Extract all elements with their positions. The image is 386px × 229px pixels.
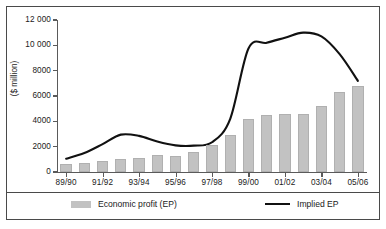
x-tick-mark xyxy=(139,173,140,177)
bar-economic-profit xyxy=(334,92,345,172)
legend-line-swatch-icon xyxy=(265,203,290,205)
x-tick-mark xyxy=(103,173,104,177)
bar-economic-profit xyxy=(170,156,181,172)
bar-economic-profit xyxy=(115,159,126,172)
bar-economic-profit xyxy=(316,106,327,172)
bar-economic-profit xyxy=(206,145,217,172)
bar-economic-profit xyxy=(261,115,272,172)
bar-economic-profit xyxy=(352,86,363,172)
legend-bar-label: Economic profit (EP) xyxy=(98,199,177,209)
x-tick-mark xyxy=(321,173,322,177)
bar-economic-profit xyxy=(243,119,254,172)
implied-ep-line xyxy=(66,33,358,159)
y-tick-label: 10 000 xyxy=(0,40,57,50)
legend-item-economic-profit: Economic profit (EP) xyxy=(71,199,177,209)
x-tick-mark xyxy=(358,173,359,177)
x-tick-mark xyxy=(66,173,67,177)
y-tick-label: 8000 xyxy=(0,66,57,76)
economic-profit-chart-figure: ($ million) 0200040006000800010 00012 00… xyxy=(0,0,386,229)
y-tick-label: 0 xyxy=(0,167,57,177)
y-tick-label: 12 000 xyxy=(0,15,57,25)
bar-economic-profit xyxy=(298,114,309,172)
legend-bar-swatch-icon xyxy=(71,201,91,208)
legend-item-implied-ep: Implied EP xyxy=(265,199,339,209)
x-tick-mark xyxy=(176,173,177,177)
bar-economic-profit xyxy=(152,155,163,172)
y-tick-label: 4000 xyxy=(0,116,57,126)
bar-economic-profit xyxy=(133,158,144,172)
plot-area xyxy=(57,20,367,172)
bar-economic-profit xyxy=(60,164,71,172)
chart-legend: Economic profit (EP) Implied EP xyxy=(7,192,379,218)
legend-line-label: Implied EP xyxy=(297,199,339,209)
bar-economic-profit xyxy=(279,114,290,172)
bar-economic-profit xyxy=(97,161,108,172)
bar-economic-profit xyxy=(188,152,199,172)
x-tick-mark xyxy=(212,173,213,177)
bar-economic-profit xyxy=(225,135,236,172)
y-tick-label: 6000 xyxy=(0,91,57,101)
x-tick-mark xyxy=(248,173,249,177)
bar-economic-profit xyxy=(79,163,90,173)
x-tick-label: 05/06 xyxy=(335,178,381,187)
x-tick-mark xyxy=(285,173,286,177)
y-tick-label: 2000 xyxy=(0,142,57,152)
